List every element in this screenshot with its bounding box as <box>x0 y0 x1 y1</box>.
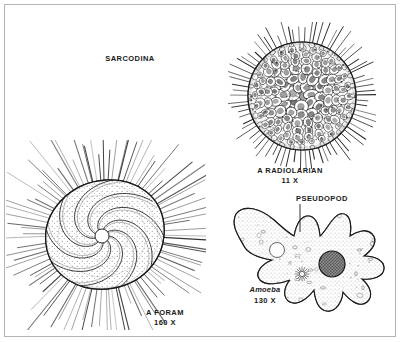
radiolarian-label: A RADIOLARIAN <box>230 166 350 176</box>
radiolarian-figure <box>228 22 376 170</box>
foram-figure <box>6 140 206 330</box>
foram-magnification: 160 X <box>105 318 225 328</box>
foram-drawing <box>6 140 206 330</box>
amoeba-label: Amoeba <box>225 285 305 295</box>
pseudopod-callout-label: PSEUDOPOD <box>296 194 392 204</box>
foram-label: A FORAM <box>105 308 225 318</box>
foram-proloculus <box>95 229 109 243</box>
illustration-plate: SARCODINA A RADIOLARIAN 11 X <box>0 0 402 342</box>
star-inclusion <box>295 267 310 282</box>
contractile-vacuole <box>270 243 285 258</box>
plate-title: SARCODINA <box>0 54 260 64</box>
radiolarian-drawing <box>228 22 376 170</box>
pseudopod-leader-line <box>296 200 336 236</box>
radiolarian-magnification: 11 X <box>230 176 350 186</box>
amoeba-magnification: 130 X <box>225 296 305 306</box>
amoeba-nucleus <box>319 251 345 277</box>
